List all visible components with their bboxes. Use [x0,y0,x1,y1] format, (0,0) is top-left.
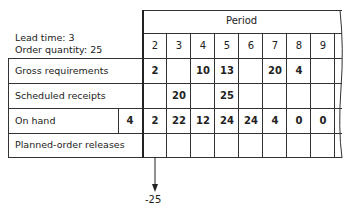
order-quantity-label: Order quantity: 25 [15,44,102,56]
row-label-gross-requirements: Gross requirements [15,65,108,77]
table-cell: 0 [287,115,311,127]
table-cell: 2 [143,65,167,77]
period-number: 5 [215,40,239,52]
table-top-border [8,58,342,59]
table-left-border [8,58,9,158]
period-number: 4 [191,40,215,52]
table-cell: 24 [239,115,263,127]
table-cell: 13 [215,65,239,77]
table-cell: 0 [311,115,335,127]
table-cell: 20 [167,90,191,102]
table-bottom-border [8,157,342,158]
table-cell: 20 [263,65,287,77]
period-number: 2 [143,40,167,52]
period-number: 6 [239,40,263,52]
table-cell: 12 [191,115,215,127]
row-label-on-hand: On hand [15,115,55,127]
table-cell: 22 [167,115,191,127]
down-arrow-icon [150,157,162,193]
table-cell: 24 [215,115,239,127]
period-number: 9 [311,40,335,52]
mrp-record: Lead time: 3 Order quantity: 25 Period 2… [0,0,353,214]
period-number: 7 [263,40,287,52]
row-divider [8,83,342,84]
period-start-border [142,10,144,158]
lead-time-label: Lead time: 3 [15,32,75,44]
row-label-planned-order-releases: Planned-order releases [15,139,125,151]
table-cell: 4 [287,65,311,77]
period-number: 3 [167,40,191,52]
table-cell: 2 [143,115,167,127]
period-header-top-border [142,10,342,11]
table-cell: 10 [191,65,215,77]
on-hand-initial: 4 [118,115,142,127]
table-cell: 4 [263,115,287,127]
row-divider [8,133,342,134]
period-label: Period [226,15,257,27]
period-number: 8 [287,40,311,52]
row-divider [8,108,342,109]
torn-edge [336,8,350,160]
period-header-divider [142,33,342,34]
table-cell: 25 [215,90,239,102]
row-label-scheduled-receipts: Scheduled receipts [15,90,106,102]
arrow-annotation-label: -25 [145,194,161,206]
